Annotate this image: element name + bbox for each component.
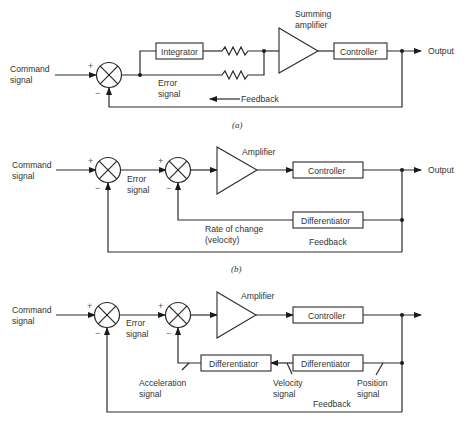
minus-sign-a: − [95, 88, 100, 98]
plus-sign-b2: + [158, 156, 163, 166]
command-signal-label-a-2: signal [10, 75, 33, 85]
position-label-2: signal [357, 389, 380, 399]
velocity-label-c-2: signal [273, 389, 296, 399]
differentiator-label-c1: Differentiator [209, 359, 258, 369]
feedback-label-a: Feedback [241, 94, 279, 104]
acceleration-feedback-path [178, 328, 201, 363]
error-signal-label-c-2: signal [126, 329, 149, 339]
velocity-label-b: (velocity) [205, 235, 240, 245]
plus-sign-c2: + [158, 301, 163, 311]
plus-sign-a: + [88, 61, 93, 71]
rate-of-change-label: Rate of change [205, 224, 264, 234]
summing-amplifier-label-2: amplifier [295, 20, 328, 30]
position-pointer [376, 363, 383, 375]
error-signal-label-a-2: signal [158, 89, 181, 99]
control-block-diagrams: Command signal + − Integrator Error sign… [0, 0, 467, 425]
velocity-label-c: Velocity [273, 378, 303, 388]
plus-sign-c1: + [87, 301, 92, 311]
command-signal-label-b-2: signal [12, 171, 35, 181]
summing-amplifier-icon [279, 28, 318, 73]
differentiator-label-c2: Differentiator [301, 359, 350, 369]
summing-junction-icon-b2 [166, 158, 191, 183]
caption-b: (b) [231, 264, 242, 274]
command-signal-label-b: Command [12, 160, 52, 170]
diagram-c: Command signal + − Error signal + − Ampl… [12, 291, 421, 412]
position-label: Position [357, 378, 388, 388]
differentiator-label-b: Differentiator [301, 216, 350, 226]
acceleration-label-2: signal [139, 389, 162, 399]
command-signal-label-c-2: signal [12, 316, 35, 326]
acceleration-pointer [182, 363, 189, 370]
feedback-label-b: Feedback [309, 237, 347, 247]
command-signal-label-c: Command [12, 305, 52, 315]
resistor-icon-bottom [222, 51, 264, 79]
controller-label-c: Controller [308, 311, 345, 321]
summing-junction-icon-b1 [96, 158, 121, 183]
summing-amplifier-label: Summing [295, 9, 332, 19]
error-signal-label-a: Error [158, 78, 177, 88]
velocity-feedback-path-b [178, 183, 293, 220]
caption-a: (a) [232, 120, 243, 130]
error-signal-label-c: Error [126, 318, 145, 328]
minus-sign-c2: − [166, 328, 171, 338]
diagram-a: Command signal + − Integrator Error sign… [10, 9, 454, 130]
resistor-icon-top [222, 47, 262, 55]
summing-junction-icon-c2 [166, 303, 191, 328]
integrator-branch-a [140, 51, 156, 75]
feedback-label-c: Feedback [313, 399, 351, 409]
integrator-label: Integrator [161, 47, 198, 57]
minus-sign-b2: − [166, 183, 171, 193]
summing-junction-icon-a [97, 63, 122, 88]
amplifier-label-b: Amplifier [242, 147, 276, 157]
amplifier-label-c: Amplifier [241, 291, 275, 301]
controller-label-a: Controller [340, 47, 377, 57]
diagram-b: Command signal + − Error signal + − Ampl… [12, 147, 454, 274]
error-signal-label-b: Error [127, 174, 146, 184]
controller-label-b: Controller [308, 166, 345, 176]
minus-sign-b1: − [95, 183, 100, 193]
output-label-b: Output [428, 165, 454, 175]
summing-junction-icon-c1 [95, 303, 120, 328]
plus-sign-b1: + [88, 156, 93, 166]
acceleration-label: Acceleration [139, 378, 187, 388]
output-label-a: Output [428, 46, 454, 56]
velocity-pointer [287, 363, 292, 374]
error-signal-label-b-2: signal [127, 185, 150, 195]
command-signal-label-a: Command [10, 64, 50, 74]
minus-sign-c1: − [95, 328, 100, 338]
